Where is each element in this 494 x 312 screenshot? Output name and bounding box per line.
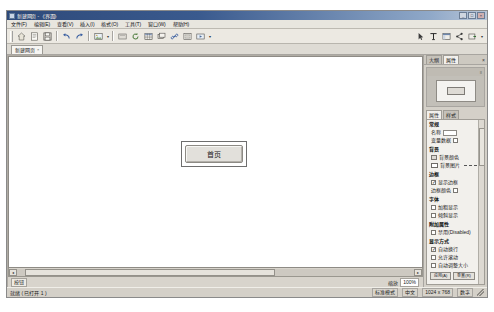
border-color-checkbox[interactable]	[453, 188, 458, 193]
selected-element-tag[interactable]: 按钮	[11, 278, 27, 287]
pointer-icon[interactable]	[414, 30, 427, 43]
redo-icon[interactable]	[73, 30, 86, 43]
reset-button[interactable]: 重置(R)	[453, 272, 475, 280]
row-background-color[interactable]: 背景颜色	[429, 154, 482, 161]
undo-icon[interactable]	[60, 30, 73, 43]
italic-checkbox[interactable]	[431, 213, 436, 218]
word-wrap-checkbox[interactable]	[431, 247, 436, 252]
minimize-button[interactable]: _	[459, 12, 467, 19]
preview-element	[447, 87, 465, 95]
background-color-icon	[431, 155, 437, 160]
close-icon[interactable]: ×	[482, 56, 487, 64]
menu-item-help[interactable]: 帮助(H)	[172, 21, 190, 28]
property-vertical-scrollbar[interactable]	[478, 120, 484, 284]
group-title-display: 显示方式	[429, 238, 482, 245]
maximize-button[interactable]: □	[468, 12, 476, 19]
refresh-icon[interactable]	[129, 30, 142, 43]
document-tab[interactable]: 新建网页 ×	[11, 45, 43, 54]
form-icon[interactable]	[181, 30, 194, 43]
label-word-wrap: 自动换行	[438, 246, 458, 253]
link-icon[interactable]	[168, 30, 181, 43]
menu-item-edit[interactable]: 编辑(E)	[33, 21, 51, 28]
home-icon[interactable]	[15, 30, 28, 43]
row-background-image[interactable]: 背景图片	[429, 162, 482, 169]
zoom-value[interactable]: 100%	[400, 278, 419, 287]
row-show-border[interactable]: 显示边框	[429, 179, 482, 186]
tab-outline[interactable]: 大纲	[426, 55, 442, 64]
row-allow-scroll[interactable]: 允许滚动	[429, 254, 482, 261]
row-word-wrap[interactable]: 自动换行	[429, 246, 482, 253]
tab-properties[interactable]: 属性	[443, 55, 459, 64]
image-icon[interactable]	[92, 30, 105, 43]
panel-menu-icon[interactable]: ≡	[480, 70, 482, 75]
label-allow-scroll: 允许滚动	[438, 254, 458, 261]
group-title-border: 边框	[429, 171, 482, 178]
page-button[interactable]: 首页	[185, 145, 243, 163]
new-page-icon[interactable]	[28, 30, 41, 43]
layer-icon[interactable]	[155, 30, 168, 43]
layout-icon[interactable]	[440, 30, 453, 43]
row-italic[interactable]: 倾斜显示	[429, 212, 482, 219]
preview-icon[interactable]	[116, 30, 129, 43]
row-bold[interactable]: 加粗显示	[429, 204, 482, 211]
label-disabled: 禁用(Disabled)	[438, 229, 471, 236]
zoom-control[interactable]: 缩放 100%	[388, 278, 419, 287]
row-disabled[interactable]: 禁用(Disabled)	[429, 229, 482, 236]
row-border-color[interactable]: 边框颜色	[429, 187, 482, 194]
row-auto-resize[interactable]: 自动调整大小	[429, 262, 482, 269]
prop-tab-styles[interactable]: 样式	[443, 110, 459, 119]
publish-dropdown-caret-icon[interactable]: ▾	[479, 34, 484, 39]
window-controls[interactable]: _ □ ×	[459, 12, 485, 19]
resize-grip-icon[interactable]	[477, 289, 484, 296]
menu-item-insert[interactable]: 插入(I)	[79, 21, 95, 28]
row-variable-data[interactable]: 变量数据	[429, 137, 482, 144]
close-button[interactable]: ×	[477, 12, 485, 19]
media-icon[interactable]	[194, 30, 207, 43]
text-tool-icon[interactable]	[427, 30, 440, 43]
label-auto-resize: 自动调整大小	[438, 262, 468, 269]
status-cell-language: 中文	[402, 288, 418, 297]
bold-checkbox[interactable]	[431, 205, 436, 210]
toolbar-grip[interactable]	[10, 31, 13, 42]
property-scroll-thumb[interactable]	[479, 128, 485, 166]
title-bar[interactable]: 新建网页 - 《界面》 _ □ ×	[7, 11, 487, 20]
toolbar: ▾ ▾	[7, 29, 487, 44]
group-title-background: 背景	[429, 146, 482, 153]
image-dropdown-caret-icon[interactable]: ▾	[105, 34, 110, 39]
row-name[interactable]: 名称	[429, 129, 482, 136]
background-image-swatch[interactable]	[431, 163, 438, 168]
save-icon[interactable]	[41, 30, 54, 43]
show-border-checkbox[interactable]	[431, 180, 436, 185]
group-title-font: 字体	[429, 196, 482, 203]
label-background-image: 背景图片	[440, 162, 460, 169]
disabled-checkbox[interactable]	[431, 230, 436, 235]
apply-button[interactable]: 应用(A)	[430, 272, 451, 280]
label-border-color: 边框颜色	[431, 187, 451, 194]
auto-resize-checkbox[interactable]	[431, 263, 436, 268]
design-canvas[interactable]: 首页	[8, 56, 423, 268]
canvas-horizontal-scrollbar[interactable]: ◂ ▸	[8, 268, 423, 277]
close-icon[interactable]: ×	[37, 46, 39, 54]
property-inspector[interactable]: 常规 名称 变量数据 背景 背景颜色	[426, 119, 485, 285]
menu-item-window[interactable]: 窗口(W)	[147, 21, 167, 28]
scroll-thumb[interactable]	[25, 269, 275, 276]
scroll-track[interactable]	[17, 269, 414, 276]
share-icon[interactable]	[453, 30, 466, 43]
prop-tab-attributes[interactable]: 属性	[426, 110, 442, 119]
menu-item-format[interactable]: 格式(O)	[100, 21, 119, 28]
menu-item-tools[interactable]: 工具(T)	[124, 21, 142, 28]
allow-scroll-checkbox[interactable]	[431, 255, 436, 260]
preview-thumbnail-area[interactable]	[427, 76, 484, 106]
scroll-left-icon[interactable]: ◂	[9, 269, 17, 276]
property-button-strip: 应用(A) 重置(R)	[429, 272, 482, 280]
media-dropdown-caret-icon[interactable]: ▾	[207, 34, 212, 39]
publish-icon[interactable]	[466, 30, 479, 43]
scroll-right-icon[interactable]: ▸	[414, 269, 422, 276]
menu-item-view[interactable]: 查看(V)	[56, 21, 74, 28]
menu-item-file[interactable]: 文件(F)	[10, 21, 28, 28]
name-input[interactable]	[443, 130, 457, 136]
table-icon[interactable]	[142, 30, 155, 43]
variable-data-checkbox[interactable]	[453, 138, 458, 143]
application-window: 新建网页 - 《界面》 _ □ × 文件(F) 编辑(E) 查看(V) 插入(I…	[6, 10, 488, 298]
status-bar: 就绪 ( 已打开 1 ) 标准模式 中文 1024 x 768 数字	[7, 287, 487, 297]
